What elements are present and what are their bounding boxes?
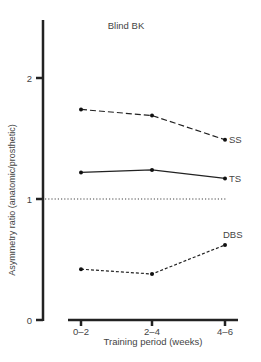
data-point — [223, 138, 227, 142]
x-tick-label: 4–6 — [217, 326, 233, 337]
series-group: SSTSDBS — [79, 107, 243, 276]
series-ts: TS — [79, 168, 241, 184]
series-label: TS — [229, 173, 241, 184]
y-axis-ticks: 012 — [27, 73, 43, 326]
series-label: DBS — [223, 229, 243, 240]
data-point — [79, 170, 83, 174]
x-axis-label: Training period (weeks) — [104, 336, 203, 347]
x-tick-label: 0–2 — [73, 326, 89, 337]
series-line — [81, 245, 225, 274]
series-ss: SS — [79, 107, 242, 145]
y-tick-label: 2 — [27, 73, 32, 84]
line-chart: Blind BK 012 Asymmetry ratio (anatomic/p… — [0, 0, 261, 362]
series-label: SS — [229, 134, 242, 145]
data-point — [150, 114, 154, 118]
data-point — [223, 176, 227, 180]
y-axis-label: Asymmetry ratio (anatomic/prosthetic) — [7, 124, 17, 276]
data-point — [79, 267, 83, 271]
x-axis-ticks: 0–22–44–6 — [73, 320, 233, 337]
data-point — [79, 107, 83, 111]
y-tick-label: 0 — [27, 315, 32, 326]
y-tick-label: 1 — [27, 194, 32, 205]
data-point — [223, 243, 227, 247]
data-point — [150, 272, 154, 276]
series-dbs: DBS — [79, 229, 243, 276]
chart-title: Blind BK — [108, 20, 145, 31]
data-point — [150, 168, 154, 172]
